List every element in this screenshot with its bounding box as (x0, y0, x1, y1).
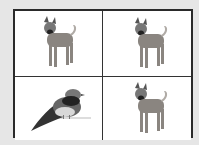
image-grid (13, 9, 193, 138)
cell-bottom-left[interactable] (15, 77, 102, 140)
cell-top-right[interactable] (103, 11, 191, 76)
cell-bottom-right[interactable] (103, 77, 191, 140)
dog-icon (131, 82, 169, 138)
horizontal-divider (15, 76, 191, 77)
dog-icon (131, 17, 169, 73)
cell-top-left[interactable] (15, 11, 102, 76)
bird-icon (29, 87, 95, 133)
dog-icon (40, 16, 78, 72)
